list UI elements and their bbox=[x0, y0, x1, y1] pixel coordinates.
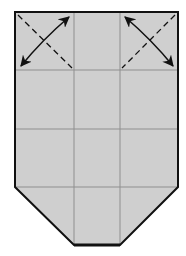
origami-diagram bbox=[0, 0, 186, 256]
